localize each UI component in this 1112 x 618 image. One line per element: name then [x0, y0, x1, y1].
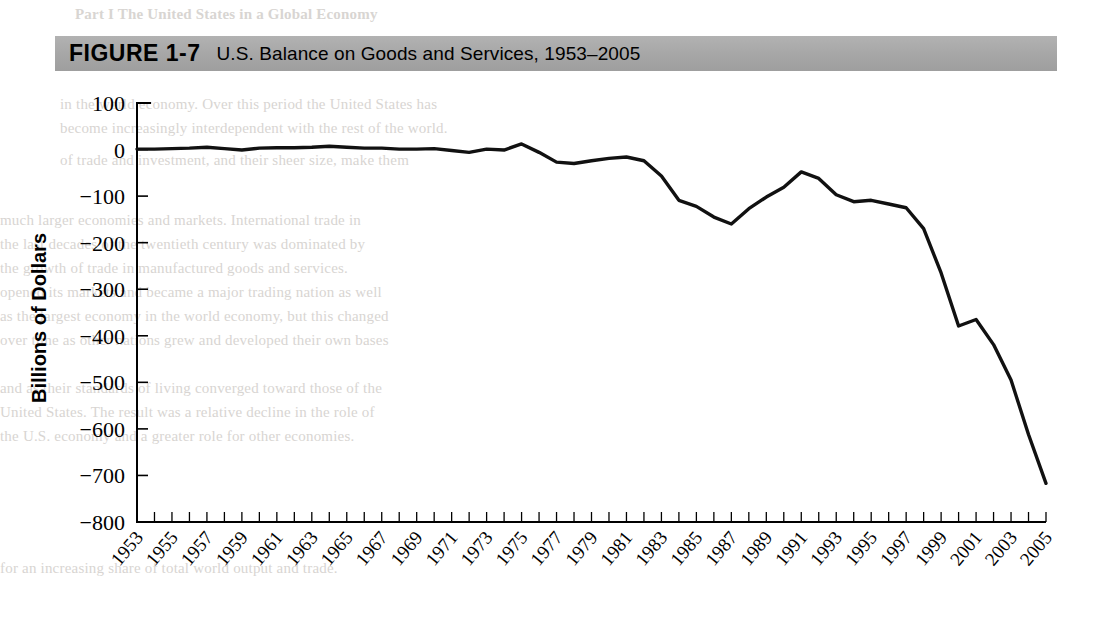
svg-text:1993: 1993: [806, 527, 847, 570]
x-axis-tick-labels: 1953195519571959196119631965196719691971…: [107, 527, 1057, 570]
x-axis-ticks: [137, 512, 1046, 522]
y-axis-ticks: [137, 103, 148, 522]
svg-text:1965: 1965: [316, 527, 357, 570]
svg-text:100: 100: [92, 91, 125, 116]
axis-lines: [137, 103, 1046, 522]
svg-text:−300: −300: [80, 277, 125, 302]
svg-text:1991: 1991: [771, 527, 812, 570]
svg-text:1983: 1983: [631, 527, 672, 570]
svg-text:2005: 2005: [1016, 527, 1057, 570]
svg-text:1973: 1973: [456, 527, 497, 570]
svg-text:1969: 1969: [386, 527, 427, 570]
data-series-line: [137, 144, 1046, 483]
svg-text:1979: 1979: [561, 527, 602, 570]
svg-text:1999: 1999: [911, 527, 952, 570]
svg-text:1971: 1971: [421, 527, 462, 570]
svg-text:−800: −800: [80, 510, 125, 535]
svg-text:−100: −100: [80, 184, 125, 209]
svg-text:1957: 1957: [176, 527, 217, 570]
svg-text:2001: 2001: [946, 527, 987, 570]
svg-text:0: 0: [114, 138, 125, 163]
svg-text:1975: 1975: [491, 527, 532, 570]
svg-text:1989: 1989: [736, 527, 777, 570]
svg-text:1985: 1985: [666, 527, 707, 570]
figure-container: FIGURE 1-7 U.S. Balance on Goods and Ser…: [0, 0, 1112, 618]
y-axis-title: Billions of Dollars: [28, 233, 50, 403]
svg-text:−600: −600: [80, 417, 125, 442]
svg-text:1961: 1961: [246, 527, 287, 570]
svg-text:−200: −200: [80, 231, 125, 256]
svg-text:−500: −500: [80, 370, 125, 395]
svg-text:1977: 1977: [526, 527, 567, 570]
svg-text:2003: 2003: [981, 527, 1022, 570]
line-chart: 1000−100−200−300−400−500−600−700−800 195…: [0, 0, 1112, 618]
svg-text:−700: −700: [80, 463, 125, 488]
svg-text:−400: −400: [80, 324, 125, 349]
svg-text:1995: 1995: [841, 527, 882, 570]
svg-text:1967: 1967: [351, 527, 392, 570]
svg-text:1997: 1997: [876, 527, 917, 570]
svg-text:1963: 1963: [281, 527, 322, 570]
svg-text:1987: 1987: [701, 527, 742, 570]
y-axis-tick-labels: 1000−100−200−300−400−500−600−700−800: [80, 91, 125, 535]
svg-text:1959: 1959: [211, 527, 252, 570]
svg-text:1955: 1955: [142, 527, 183, 570]
svg-text:1981: 1981: [596, 527, 637, 570]
